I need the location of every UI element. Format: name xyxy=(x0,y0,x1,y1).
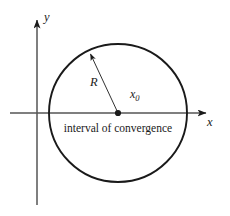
y-axis-label: y xyxy=(42,10,50,24)
radius-label: R xyxy=(89,75,98,89)
center-point-label-subscript: 0 xyxy=(135,93,140,103)
convergence-circle-diagram: y x R x0 interval of convergence xyxy=(0,0,230,216)
x-axis-label: x xyxy=(206,115,213,129)
center-point-label: x0 xyxy=(129,87,140,103)
figure-canvas: y x R x0 interval of convergence xyxy=(0,0,230,216)
interval-caption: interval of convergence xyxy=(64,122,172,135)
center-point-dot xyxy=(115,110,121,116)
